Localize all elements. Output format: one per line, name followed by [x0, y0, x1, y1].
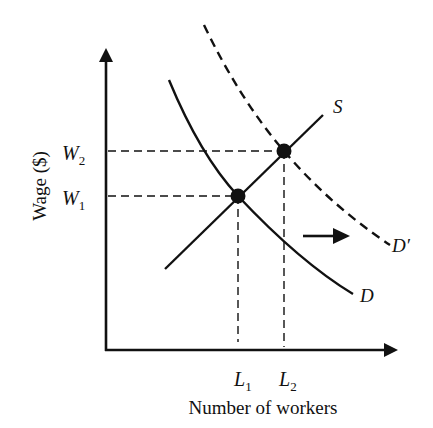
demand-label: D	[359, 285, 374, 306]
x-axis-arrow-icon	[384, 343, 398, 357]
y-axis-arrow-icon	[99, 48, 113, 62]
w1-label: W1	[62, 187, 85, 213]
labor-market-diagram: S D D′ W2 W1 L1 L2 Number of workers Wag…	[0, 0, 433, 428]
equilibrium-point-2	[277, 144, 292, 159]
supply-label: S	[333, 96, 343, 117]
shift-arrow-icon	[303, 228, 350, 244]
axes	[99, 48, 398, 357]
l2-label: L2	[278, 368, 297, 394]
demand-shifted-label: D′	[391, 235, 411, 256]
demand-shifted-curve	[204, 25, 390, 245]
w2-label: W2	[62, 142, 85, 168]
equilibrium-point-1	[231, 189, 246, 204]
demand-curve	[169, 80, 353, 294]
x-axis-title: Number of workers	[189, 397, 338, 418]
y-axis-title: Wage ($)	[29, 151, 51, 221]
l1-label: L1	[233, 368, 252, 394]
